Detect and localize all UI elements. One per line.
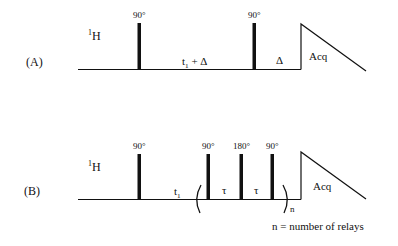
panel-a-pulse-2-angle: 90° — [248, 11, 261, 20]
panel-a-graphics — [78, 23, 366, 71]
panel-b-footnote: n = number of relays — [272, 221, 364, 232]
panel-a-pulse-1 — [138, 23, 142, 70]
panel-b-repeat-count: n — [290, 205, 295, 214]
panel-a-label: (A) — [26, 56, 43, 68]
panel-b-label: (B) — [24, 185, 40, 197]
panel-a-delay-delta: Δ — [276, 55, 283, 66]
panel-b-pulse-4 — [271, 154, 275, 200]
panel-b-pulse-2 — [207, 154, 211, 200]
panel-a-pulse-2 — [253, 23, 257, 70]
panel-b-pulse-3 — [240, 154, 244, 200]
panel-a-acquisition-fid — [301, 24, 366, 71]
panel-b-nucleus-symbol: H — [92, 160, 101, 174]
panel-b-acquisition-fid — [301, 152, 366, 200]
panel-a-pulse-1-angle: 90° — [133, 11, 146, 20]
panel-a-nucleus: 1H — [88, 30, 101, 42]
panel-b-nucleus: 1H — [88, 161, 101, 173]
panel-b-delay-tau-1: τ — [222, 185, 226, 196]
panel-b-delay-t1: t1 — [174, 186, 181, 197]
pulse-sequence-diagram: (A) 1H 90° 90° t1 + Δ Δ Acq (B) 1H 90° 9… — [0, 0, 398, 246]
panel-a-acq-label: Acq — [309, 51, 327, 62]
panel-b-acq-label: Acq — [313, 181, 331, 192]
panel-b-pulse-2-angle: 90° — [202, 142, 215, 151]
panel-a-nucleus-symbol: H — [92, 29, 101, 43]
panel-b-pulse-4-angle: 90° — [266, 142, 279, 151]
pulse-sequence-graphics — [0, 0, 398, 246]
panel-b-delay-tau-2: τ — [254, 185, 258, 196]
panel-b-pulse-1-angle: 90° — [133, 142, 146, 151]
delay-suffix: + Δ — [189, 55, 208, 67]
panel-b-pulse-1 — [138, 154, 142, 200]
panel-b-pulse-3-angle: 180° — [233, 142, 250, 151]
delay-subscript: 1 — [177, 192, 181, 200]
panel-a-delay-t1-plus-delta: t1 + Δ — [182, 56, 207, 67]
